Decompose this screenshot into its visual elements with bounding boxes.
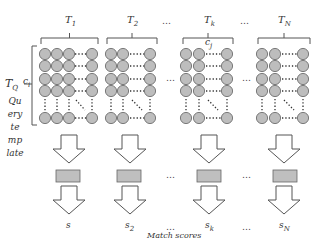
- pipeline-n: [268, 135, 300, 214]
- score-sk: sk: [205, 220, 214, 233]
- t1-sub: 1: [72, 20, 76, 28]
- score-s1: s: [66, 220, 71, 233]
- caption-line: ery: [2, 108, 28, 121]
- pipeline-k: [193, 135, 225, 214]
- sn-sub: N: [284, 225, 290, 233]
- s1-main: s: [66, 220, 71, 230]
- sk-sub: k: [210, 225, 214, 233]
- t1-main: T: [65, 14, 72, 25]
- grid-ellipsis-1: …: [166, 73, 175, 83]
- match-scores-caption: Match scores: [147, 231, 201, 240]
- score-s2: s2: [125, 220, 134, 233]
- row-label-ci: ci: [23, 76, 30, 89]
- rect-ellipsis-1: …: [166, 170, 175, 180]
- header-tk: Tk: [204, 14, 215, 28]
- query-template-caption: Qu ery te mp late: [2, 95, 28, 160]
- tq-sub: Q: [12, 84, 18, 92]
- ci-sub: i: [28, 81, 30, 89]
- score-sn: sN: [279, 220, 290, 233]
- group-1-grid: [39, 48, 97, 123]
- score-ellipsis-2: …: [242, 222, 251, 232]
- rect-ellipsis-2: …: [242, 170, 251, 180]
- header-t1: T1: [65, 14, 76, 28]
- group-n-grid: [256, 48, 308, 123]
- column-label-cj: cj: [205, 37, 212, 50]
- t2-sub: 2: [134, 20, 138, 28]
- t2-main: T: [127, 14, 134, 25]
- cj-sub: j: [210, 42, 212, 50]
- query-label-tq: TQ: [5, 77, 18, 92]
- pipeline-1: [53, 135, 85, 214]
- caption-line: Qu: [2, 95, 28, 108]
- group-brackets: [41, 33, 310, 44]
- grid-ellipsis-2: …: [242, 73, 251, 83]
- tk-main: T: [204, 14, 211, 25]
- tn-main: T: [278, 14, 285, 25]
- header-t2: T2: [127, 14, 138, 28]
- s2-sub: 2: [130, 225, 134, 233]
- diagram-graphics: [0, 0, 326, 240]
- caption-line: te: [2, 121, 28, 134]
- caption-line: mp: [2, 134, 28, 147]
- header-ellipsis-2: …: [240, 16, 249, 26]
- header-ellipsis-1: …: [162, 16, 171, 26]
- header-tn: TN: [278, 14, 291, 28]
- caption-line: late: [2, 147, 28, 160]
- tn-sub: N: [285, 20, 291, 28]
- group-k-grid: [180, 48, 232, 123]
- group-2-grid: [105, 48, 155, 123]
- tk-sub: k: [211, 20, 215, 28]
- pipeline-2: [114, 135, 146, 214]
